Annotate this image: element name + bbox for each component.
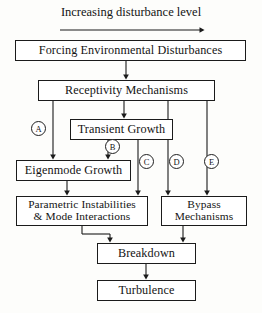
node-eigenmode-growth[interactable]: Eigenmode Growth xyxy=(16,160,131,181)
path-marker-b: B xyxy=(105,139,120,154)
node-parametric-instabilities[interactable]: Parametric Instabilities & Mode Interact… xyxy=(16,196,148,226)
path-marker-a: A xyxy=(31,121,46,136)
node-bypass-mechanisms[interactable]: Bypass Mechanisms xyxy=(161,196,247,226)
path-marker-d: D xyxy=(169,154,184,169)
node-transient-growth[interactable]: Transient Growth xyxy=(70,119,173,140)
path-marker-e: E xyxy=(204,154,219,169)
node-turbulence[interactable]: Turbulence xyxy=(97,280,196,301)
transition-to-turbulence-diagram: Increasing disturbance level Forcing Env… xyxy=(0,0,262,313)
path-marker-c: C xyxy=(139,154,154,169)
diagram-title: Increasing disturbance level xyxy=(0,5,262,20)
node-receptivity-mechanisms[interactable]: Receptivity Mechanisms xyxy=(38,80,215,101)
node-breakdown[interactable]: Breakdown xyxy=(97,243,196,264)
node-forcing-environmental-disturbances[interactable]: Forcing Environmental Disturbances xyxy=(15,40,246,61)
